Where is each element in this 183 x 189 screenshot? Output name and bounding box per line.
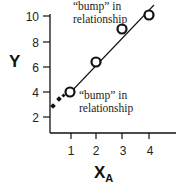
x-ticks <box>71 133 149 139</box>
annotation-bottom: “bump” in relationship <box>79 89 134 115</box>
annotation-line: relationship <box>79 102 134 115</box>
y-tick-label: 4 <box>32 86 39 100</box>
x-axis-label-subscript: A <box>105 172 113 184</box>
annotation-line: relationship <box>73 13 128 26</box>
data-point <box>92 58 101 67</box>
y-tick-label: 2 <box>32 111 39 125</box>
x-axis-label: XA <box>94 163 113 184</box>
y-ticks <box>43 16 50 117</box>
y-tick-label: 6 <box>32 61 39 75</box>
x-tick-labels: 1 2 3 4 <box>68 144 154 158</box>
x-axis-label-main: X <box>94 163 106 182</box>
extrapolation-dots <box>50 93 65 108</box>
annotation-top: “bump” in relationship <box>73 0 128 26</box>
x-tick-label: 2 <box>93 144 100 158</box>
x-tick-label: 4 <box>147 144 154 158</box>
data-point <box>66 88 75 97</box>
y-tick-label: 8 <box>32 36 39 50</box>
annotation-line: “bump” in <box>73 0 121 13</box>
scatter-chart: 10 8 6 4 2 1 2 3 4 Y XA “bump” in relati… <box>0 0 183 189</box>
annotation-line: “bump” in <box>79 89 127 102</box>
y-tick-labels: 10 8 6 4 2 <box>26 10 40 125</box>
x-tick-label: 1 <box>68 144 75 158</box>
x-tick-label: 3 <box>120 144 127 158</box>
data-point <box>118 25 127 34</box>
y-tick-label: 10 <box>26 10 40 24</box>
y-axis-label: Y <box>9 52 21 71</box>
data-point <box>145 11 154 20</box>
